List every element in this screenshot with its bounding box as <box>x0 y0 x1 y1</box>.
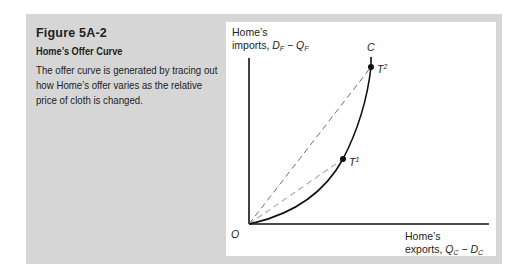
price-line-t1 <box>249 159 343 224</box>
figure-caption: Figure 5A-2 Home’s Offer Curve The offer… <box>36 26 222 108</box>
x-axis-label: Home’s exports, QC − DC <box>405 230 483 259</box>
figure-title: Home’s Offer Curve <box>36 45 200 57</box>
figure-number: Figure 5A-2 <box>36 26 222 40</box>
plot-svg <box>226 22 496 256</box>
point-t2 <box>368 64 374 70</box>
offer-curve-plot: Home’s imports, DF − QF C T2 T1 O Home’s… <box>226 22 496 256</box>
y-axis-label: Home’s imports, DF − QF <box>232 26 309 55</box>
origin-label: O <box>231 228 239 241</box>
offer-curve <box>249 57 371 224</box>
label-t2: T2 <box>377 60 387 76</box>
label-t1: T1 <box>349 153 359 169</box>
figure-description: The offer curve is generated by tracing … <box>36 63 225 108</box>
price-line-t2 <box>249 67 371 224</box>
figure-frame: Figure 5A-2 Home’s Offer Curve The offer… <box>26 14 502 264</box>
curve-label-c: C <box>367 41 375 54</box>
point-t1 <box>340 156 346 162</box>
